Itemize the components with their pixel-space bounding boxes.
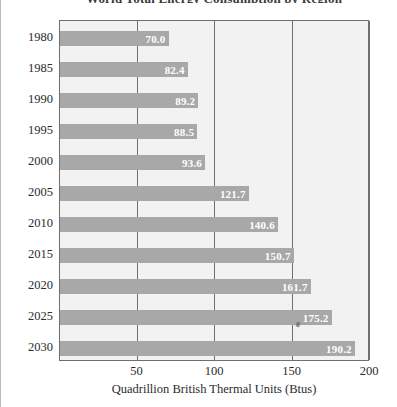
bar-value-label: 121.7: [220, 188, 246, 199]
y-axis-label-2015: 2015: [1, 247, 53, 262]
bar-row: 70.0: [60, 31, 368, 46]
y-axis-labels: 1980198519901995200020052010201520202025…: [1, 20, 53, 361]
bar-2030: 190.2: [60, 341, 355, 356]
y-axis-label-2030: 2030: [1, 340, 53, 355]
bar-value-label: 190.2: [326, 343, 352, 354]
bar-value-label: 70.0: [145, 33, 165, 44]
bar-2010: 140.6: [60, 217, 278, 232]
bar-1995: 88.5: [60, 124, 197, 139]
chart-title: World Total Energy Consumption by Region: [59, 0, 369, 3]
bar-1985: 82.4: [60, 62, 188, 77]
bar-value-label: 175.2: [303, 312, 329, 323]
bar-row: 150.7: [60, 248, 368, 263]
bar-2015: 150.7: [60, 248, 294, 263]
bar-2005: 121.7: [60, 186, 249, 201]
y-axis-label-2010: 2010: [1, 216, 53, 231]
x-axis-tick-150: 150: [282, 363, 301, 379]
bar-row: 140.6: [60, 217, 368, 232]
bar-1980: 70.0: [60, 31, 169, 46]
bar-row: 82.4: [60, 62, 368, 77]
bar-value-label: 140.6: [249, 219, 275, 230]
bar-row: 161.7: [60, 279, 368, 294]
bar-row: 93.6: [60, 155, 368, 170]
y-axis-label-1980: 1980: [1, 30, 53, 45]
x-axis-tick-200: 200: [360, 363, 379, 379]
bar-row: 175.2: [60, 310, 368, 325]
plot-area: 70.082.489.288.593.6121.7140.6150.7161.7…: [59, 20, 369, 361]
bar-value-label: 161.7: [282, 281, 308, 292]
y-axis-label-2020: 2020: [1, 278, 53, 293]
bar-row: 89.2: [60, 93, 368, 108]
bar-row: 121.7: [60, 186, 368, 201]
x-axis-title: Quadrillion British Thermal Units (Btus): [59, 382, 369, 397]
bar-2020: 161.7: [60, 279, 311, 294]
bar-2025: 175.2: [60, 310, 332, 325]
y-axis-label-1990: 1990: [1, 92, 53, 107]
bar-row: 88.5: [60, 124, 368, 139]
bar-value-label: 82.4: [165, 64, 185, 75]
gridline-200: [369, 21, 370, 360]
y-axis-label-1995: 1995: [1, 123, 53, 138]
x-axis-tick-50: 50: [130, 363, 143, 379]
bar-1990: 89.2: [60, 93, 198, 108]
y-axis-label-2000: 2000: [1, 154, 53, 169]
y-axis-label-2005: 2005: [1, 185, 53, 200]
x-axis-tick-100: 100: [205, 363, 224, 379]
bar-value-label: 89.2: [175, 95, 195, 106]
y-axis-label-1985: 1985: [1, 61, 53, 76]
bars-layer: 70.082.489.288.593.6121.7140.6150.7161.7…: [60, 21, 368, 360]
page-frame: World Total Energy Consumption by Region…: [0, 0, 397, 407]
y-axis-label-2025: 2025: [1, 309, 53, 324]
bar-value-label: 88.5: [174, 126, 194, 137]
bar-value-label: 93.6: [182, 157, 202, 168]
x-axis-ticks: 50100150200: [59, 363, 389, 379]
bar-2000: 93.6: [60, 155, 205, 170]
bar-value-label: 150.7: [265, 250, 291, 261]
bar-row: 190.2: [60, 341, 368, 356]
